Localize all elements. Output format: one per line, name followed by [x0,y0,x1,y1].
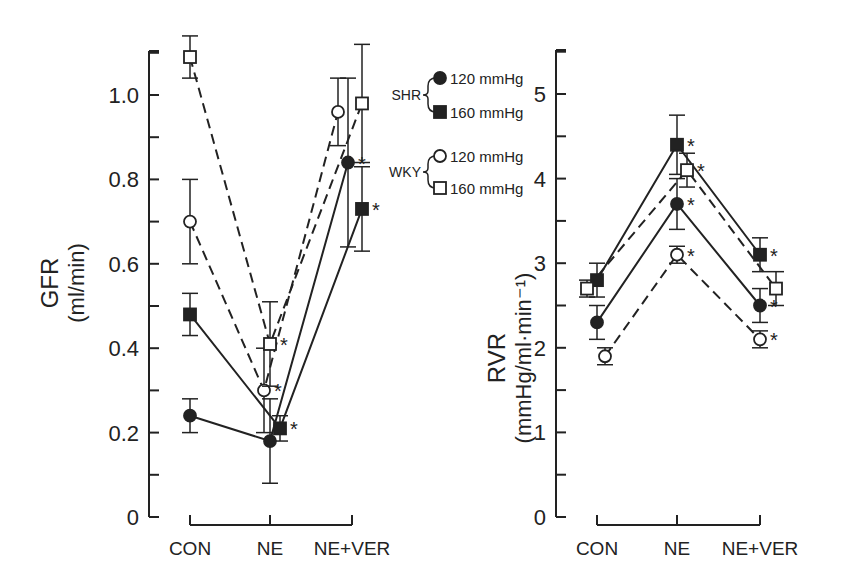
data-point [264,338,276,350]
y-tick-label: 5 [534,82,546,107]
significance-asterisk: * [687,245,695,267]
data-point [274,422,286,434]
legend-label: 160 mmHg [450,180,523,197]
series-shr-120-mmhg: ** [589,179,778,340]
significance-asterisk: * [687,194,695,216]
y-tick-label: 0 [127,505,139,530]
x-axis: CONNENE+VER [169,515,390,559]
data-point [671,139,683,151]
y-tick-label: 0.4 [108,336,139,361]
significance-asterisk: * [280,334,288,356]
legend-group-wky: WKY120 mmHg160 mmHg [389,148,523,197]
data-point [356,97,368,109]
x-tick-label: NE+VER [722,538,799,559]
data-point [342,157,354,169]
legend-label: 160 mmHg [450,104,523,121]
data-point [599,350,611,362]
y-tick-label: 0.8 [108,167,139,192]
legend: SHR120 mmHg160 mmHgWKY120 mmHg160 mmHg [389,70,523,197]
y-tick-label: 4 [534,167,546,192]
significance-asterisk: * [770,296,778,318]
significance-asterisk: * [372,199,380,221]
y-axis-title: RVR(mmHg/ml·min⁻¹) [483,273,536,444]
y-axis-title: GFR(ml/min) [36,243,89,322]
data-point [770,283,782,295]
data-point [754,300,766,312]
figure: 00.20.40.60.81.0GFR(ml/min)CONNENE+VER**… [0,0,845,568]
svg-text:(ml/min): (ml/min) [64,243,89,322]
svg-text:WKY: WKY [389,164,422,180]
data-point [671,198,683,210]
x-tick-label: CON [576,538,618,559]
y-tick-label: 0.2 [108,421,139,446]
svg-text:SHR: SHR [391,87,421,103]
legend-label: 120 mmHg [450,70,523,87]
rvr-chart: 012345RVR(mmHg/ml·min⁻¹)CONNENE+VER*****… [483,50,798,559]
significance-asterisk: * [697,160,705,182]
svg-text:GFR: GFR [36,258,63,309]
gfr-chart: 00.20.40.60.81.0GFR(ml/min)CONNENE+VER**… [36,36,390,559]
x-tick-label: NE [664,538,690,559]
series-wky-160-mmhg: * [182,36,370,386]
legend-marker [434,72,446,84]
data-point [754,249,766,261]
data-point [671,249,683,261]
legend-marker [434,150,446,162]
y-tick-label: 3 [534,251,546,276]
significance-asterisk: * [274,380,282,402]
y-tick-label: 0.6 [108,252,139,277]
series-wky-120-mmhg: ** [597,245,778,365]
y-axis: 00.20.40.60.81.0 [108,51,159,530]
legend-marker [434,106,446,118]
data-point [754,333,766,345]
data-point [591,316,603,328]
legend-label: 120 mmHg [450,148,523,165]
x-tick-label: CON [169,538,211,559]
data-point [356,203,368,215]
x-tick-label: NE+VER [314,538,391,559]
significance-asterisk: * [770,329,778,351]
svg-text:(mmHg/ml·min⁻¹): (mmHg/ml·min⁻¹) [511,273,536,444]
x-axis: CONNENE+VER [576,515,798,559]
svg-text:RVR: RVR [483,333,510,383]
data-point [581,283,593,295]
significance-asterisk: * [770,245,778,267]
data-point [184,410,196,422]
legend-group-shr: SHR120 mmHg160 mmHg [391,70,523,121]
y-axis: 012345 [534,50,566,530]
legend-marker [434,182,446,194]
data-point [184,51,196,63]
y-tick-label: 0 [534,505,546,530]
y-tick-label: 1.0 [108,83,139,108]
significance-asterisk: * [290,418,298,440]
data-point [184,308,196,320]
data-point [332,106,344,118]
data-point [681,164,693,176]
x-tick-label: NE [257,538,283,559]
data-point [184,216,196,228]
